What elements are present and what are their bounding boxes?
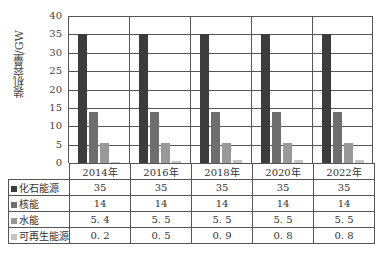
- data-row: 可再生能源0. 20. 50. 90. 80. 8: [9, 228, 375, 244]
- value-cell: 14: [131, 196, 192, 212]
- value-cell: 5. 5: [131, 212, 192, 228]
- value-cell: 14: [253, 196, 314, 212]
- bar-核能-2022年: [333, 112, 342, 163]
- data-table: 2014年2016年2018年2020年2022年 化石能源3535353535…: [8, 163, 375, 244]
- year-header-cell: 2016年: [131, 164, 192, 180]
- legend-swatch-icon: [11, 202, 17, 208]
- y-tick-label: 20: [38, 85, 62, 95]
- legend-swatch-icon: [11, 234, 17, 240]
- value-cell: 35: [131, 180, 192, 196]
- bar-水能-2022年: [344, 143, 353, 163]
- header-blank-cell: [9, 164, 70, 180]
- bar-水能-2018年: [222, 143, 231, 163]
- y-axis-label: 装机容量/GW: [12, 18, 28, 110]
- plot-area: [68, 16, 373, 163]
- bar-核能-2018年: [211, 112, 220, 163]
- value-cell: 14: [192, 196, 253, 212]
- value-cell: 5. 4: [70, 212, 131, 228]
- legend-label: 可再生能源: [19, 231, 69, 242]
- bar-水能-2016年: [161, 143, 170, 163]
- data-row: 水能5. 45. 55. 55. 55. 5: [9, 212, 375, 228]
- legend-label-cell: 水能: [9, 212, 70, 228]
- legend-swatch-icon: [11, 218, 17, 224]
- value-cell: 35: [192, 180, 253, 196]
- bar-水能-2014年: [100, 143, 109, 163]
- value-cell: 35: [70, 180, 131, 196]
- y-tick-label: 10: [38, 121, 62, 131]
- legend-label: 核能: [19, 199, 39, 210]
- category-divider: [129, 17, 130, 164]
- data-row: 化石能源3535353535: [9, 180, 375, 196]
- value-cell: 0. 9: [192, 228, 253, 244]
- legend-label: 化石能源: [19, 183, 59, 194]
- value-cell: 5. 5: [314, 212, 375, 228]
- y-tick-label: 25: [38, 66, 62, 76]
- value-cell: 14: [70, 196, 131, 212]
- bar-核能-2016年: [150, 112, 159, 163]
- legend-label-cell: 可再生能源: [9, 228, 70, 244]
- year-header-cell: 2020年: [253, 164, 314, 180]
- value-cell: 0. 8: [314, 228, 375, 244]
- value-cell: 14: [314, 196, 375, 212]
- category-divider: [251, 17, 252, 164]
- legend-label: 水能: [19, 215, 39, 226]
- year-header-cell: 2018年: [192, 164, 253, 180]
- value-cell: 5. 5: [192, 212, 253, 228]
- y-tick-label: 35: [38, 29, 62, 39]
- year-header-cell: 2014年: [70, 164, 131, 180]
- bar-核能-2020年: [272, 112, 281, 163]
- year-header-row: 2014年2016年2018年2020年2022年: [9, 164, 375, 180]
- bar-化石能源-2022年: [322, 34, 331, 163]
- data-row: 核能1414141414: [9, 196, 375, 212]
- bar-化石能源-2016年: [139, 34, 148, 163]
- value-cell: 35: [253, 180, 314, 196]
- value-cell: 0. 5: [131, 228, 192, 244]
- y-tick-label: 5: [38, 140, 62, 150]
- value-cell: 0. 8: [253, 228, 314, 244]
- bar-化石能源-2018年: [200, 34, 209, 163]
- legend-swatch-icon: [11, 186, 17, 192]
- category-divider: [190, 17, 191, 164]
- category-divider: [312, 17, 313, 164]
- y-tick-label: 15: [38, 103, 62, 113]
- legend-label-cell: 化石能源: [9, 180, 70, 196]
- value-cell: 0. 2: [70, 228, 131, 244]
- bar-水能-2020年: [283, 143, 292, 163]
- value-cell: 5. 5: [253, 212, 314, 228]
- bar-chart-with-data-table: 装机容量/GW 0510152025303540 2014年2016年2018年…: [0, 0, 379, 254]
- bar-化石能源-2020年: [261, 34, 270, 163]
- y-tick-label: 40: [38, 11, 62, 21]
- y-tick-label: 30: [38, 48, 62, 58]
- bar-化石能源-2014年: [78, 34, 87, 163]
- bar-核能-2014年: [89, 112, 98, 163]
- year-header-cell: 2022年: [314, 164, 375, 180]
- value-cell: 35: [314, 180, 375, 196]
- legend-label-cell: 核能: [9, 196, 70, 212]
